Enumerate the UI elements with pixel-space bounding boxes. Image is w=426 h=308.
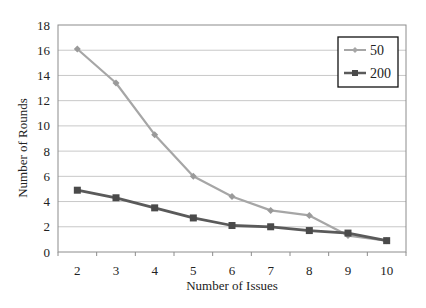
x-tick-label: 4 xyxy=(151,263,158,278)
y-tick-label: 14 xyxy=(37,68,51,83)
x-tick-label: 9 xyxy=(345,263,352,278)
x-tick-label: 2 xyxy=(74,263,81,278)
square-marker xyxy=(229,222,236,229)
y-tick-label: 10 xyxy=(37,118,50,133)
line-chart: 2345678910 024681012141618 Number of Iss… xyxy=(0,0,426,308)
legend: 50 200 xyxy=(338,37,398,87)
y-axis-title: Number of Rounds xyxy=(15,98,30,198)
y-tick-label: 0 xyxy=(44,245,51,260)
square-marker xyxy=(306,227,313,234)
x-tick-label: 3 xyxy=(113,263,120,278)
x-axis-title: Number of Issues xyxy=(186,278,278,293)
square-marker-icon xyxy=(352,70,358,76)
x-tick-label: 7 xyxy=(267,263,274,278)
legend-label-50: 50 xyxy=(370,43,384,58)
x-tick-label: 10 xyxy=(380,263,393,278)
legend-label-200: 200 xyxy=(370,66,391,81)
y-tick-label: 4 xyxy=(44,194,51,209)
y-tick-label: 16 xyxy=(37,43,51,58)
square-marker xyxy=(113,194,120,201)
y-tick-label: 18 xyxy=(37,18,50,33)
square-marker xyxy=(190,214,197,221)
y-tick-label: 8 xyxy=(44,144,51,159)
x-axis-ticks: 2345678910 xyxy=(58,252,406,278)
y-tick-label: 12 xyxy=(37,93,50,108)
diamond-marker xyxy=(267,207,274,214)
y-tick-label: 2 xyxy=(44,219,51,234)
x-tick-label: 8 xyxy=(306,263,313,278)
y-axis-ticks: 024681012141618 xyxy=(37,18,51,260)
square-marker xyxy=(74,187,81,194)
square-marker xyxy=(267,223,274,230)
y-tick-label: 6 xyxy=(44,169,51,184)
x-tick-label: 5 xyxy=(190,263,197,278)
square-marker xyxy=(151,204,158,211)
square-marker xyxy=(345,230,352,237)
square-marker xyxy=(383,237,390,244)
x-tick-label: 6 xyxy=(229,263,236,278)
